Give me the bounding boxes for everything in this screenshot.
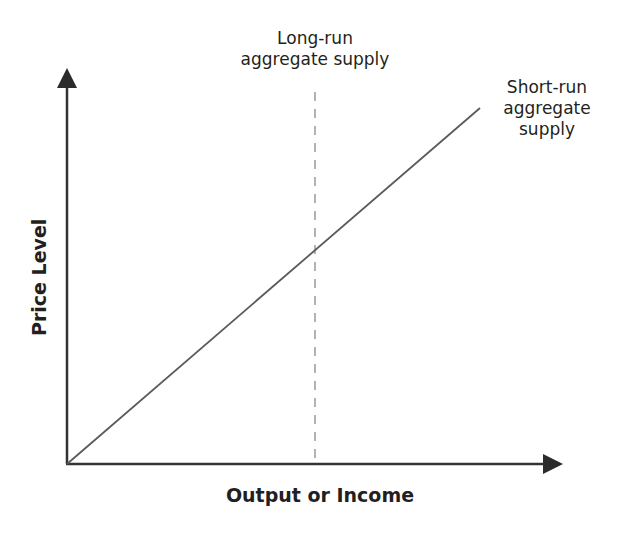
sras-label-line2: aggregate bbox=[492, 98, 602, 119]
sras-label-line3: supply bbox=[492, 119, 602, 140]
sras-line bbox=[67, 108, 480, 464]
lras-label-line2: aggregate supply bbox=[225, 49, 405, 70]
sras-label-line1: Short-run bbox=[492, 77, 602, 98]
y-axis-arrow-icon bbox=[57, 68, 77, 88]
x-axis-arrow-icon bbox=[543, 454, 563, 474]
y-axis-title: Price Level bbox=[28, 219, 50, 336]
lras-label: Long-run aggregate supply bbox=[225, 28, 405, 70]
sras-label: Short-run aggregate supply bbox=[492, 77, 602, 140]
lras-label-line1: Long-run bbox=[225, 28, 405, 49]
x-axis-title: Output or Income bbox=[170, 484, 470, 506]
